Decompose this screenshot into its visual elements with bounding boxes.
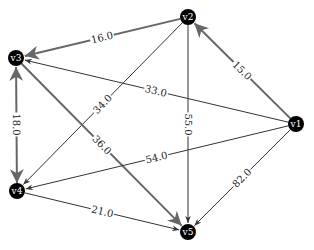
node-label: v1 (290, 119, 302, 129)
node-v1: v1 (288, 116, 304, 132)
node-v5: v5 (180, 224, 196, 240)
node-label: v5 (182, 227, 194, 237)
node-v2: v2 (180, 9, 196, 25)
edge-label-v2-v3: 16.0 (89, 29, 115, 46)
edge-label-v4-v5: 21.0 (89, 203, 115, 220)
edge-labels-layer: 16.015.033.034.036.055.054.082.021.018.0 (10, 29, 254, 220)
edge-label-v2-v5: 55.0 (182, 113, 194, 137)
nodes-layer: v1v2v3v4v5 (8, 9, 304, 240)
edge-label-v1-v4: 54.0 (143, 149, 169, 166)
edge-weight-text: 16.0 (90, 30, 114, 46)
node-label: v3 (10, 53, 22, 63)
edge-weight-text: 18.0 (11, 113, 22, 135)
edges-layer (16, 19, 290, 230)
edge-label-v4-v3: 18.0 (10, 112, 22, 136)
node-label: v4 (11, 186, 23, 196)
node-label: v2 (182, 12, 194, 22)
edge-weight-text: 55.0 (183, 113, 194, 135)
edge-weight-text: 54.0 (144, 150, 168, 166)
graph-canvas: 16.015.033.034.036.055.054.082.021.018.0… (0, 0, 314, 250)
node-v4: v4 (9, 183, 25, 199)
node-v3: v3 (8, 50, 24, 66)
edge-weight-text: 33.0 (144, 83, 168, 99)
edge-weight-text: 21.0 (90, 204, 114, 220)
edge-label-v1-v3: 33.0 (143, 82, 169, 99)
